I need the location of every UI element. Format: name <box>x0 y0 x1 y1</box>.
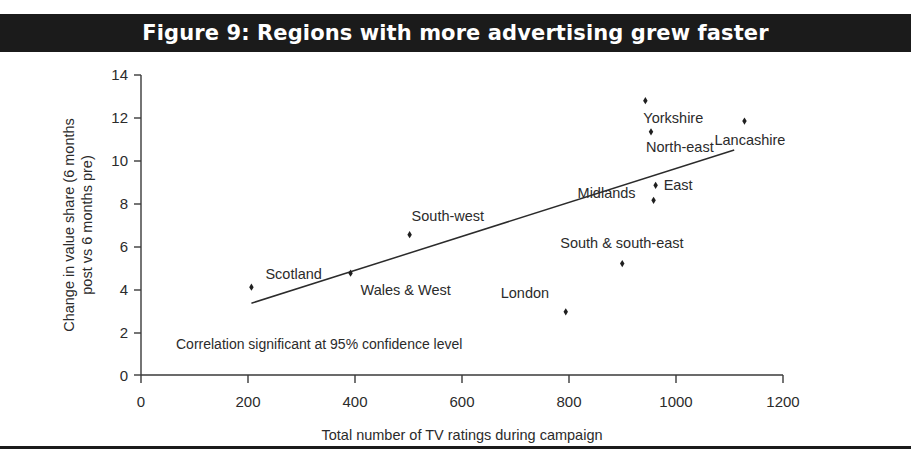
x-tick-label: 1000 <box>659 393 692 410</box>
x-tick-label: 400 <box>342 393 367 410</box>
figure-container: Figure 9: Regions with more advertising … <box>0 0 911 453</box>
y-tick-label: 8 <box>120 195 128 212</box>
y-axis-title-line2: post vs 6 months pre) <box>79 155 95 294</box>
figure-bottom-rule <box>0 446 911 449</box>
data-point-marker <box>407 231 411 238</box>
data-point-label: London <box>501 285 549 301</box>
x-tick-label: 800 <box>556 393 581 410</box>
data-point-label: North-east <box>646 139 714 155</box>
y-tick-label: 2 <box>120 324 128 341</box>
data-point-label: Midlands <box>578 185 636 201</box>
data-points-group: ScotlandWales & WestSouth-westLondonSout… <box>249 97 785 315</box>
data-point-label: South & south-east <box>560 235 683 251</box>
data-point-label: Wales & West <box>361 282 451 298</box>
x-axis-title: Total number of TV ratings during campai… <box>321 427 602 443</box>
data-point-marker <box>651 197 655 204</box>
figure-title: Figure 9: Regions with more advertising … <box>142 21 768 45</box>
data-point-marker <box>742 117 746 124</box>
x-tick-label: 1200 <box>766 393 799 410</box>
data-point-marker <box>564 308 568 315</box>
chart-plot-area: 14 12 10 8 6 4 2 0 <box>0 52 911 446</box>
trend-line <box>251 150 734 303</box>
data-point-marker <box>649 128 653 135</box>
y-tick-label: 0 <box>120 367 128 384</box>
y-axis-ticks <box>134 75 141 375</box>
y-tick-label: 6 <box>120 238 128 255</box>
y-tick-label: 4 <box>120 281 128 298</box>
y-tick-label: 10 <box>111 152 128 169</box>
y-tick-label: 12 <box>111 109 128 126</box>
correlation-annotation: Correlation significant at 95% confidenc… <box>176 336 462 352</box>
scatter-chart-svg: 14 12 10 8 6 4 2 0 <box>0 52 911 446</box>
data-point-marker <box>643 97 647 104</box>
x-tick-label: 0 <box>137 393 145 410</box>
data-point-label: Scotland <box>265 266 321 282</box>
figure-title-banner: Figure 9: Regions with more advertising … <box>0 14 911 52</box>
data-point-marker <box>653 182 657 189</box>
y-axis-tick-labels: 14 12 10 8 6 4 2 0 <box>111 66 128 384</box>
data-point-label: Lancashire <box>714 132 785 148</box>
data-point-label: South-west <box>412 208 485 224</box>
data-point-marker <box>620 260 624 267</box>
data-point-label: East <box>664 177 693 193</box>
x-axis-ticks <box>141 375 783 383</box>
data-point-label: Yorkshire <box>643 110 703 126</box>
y-axis-title-group: Change in value share (6 months post vs … <box>61 118 95 332</box>
y-axis-title-line1: Change in value share (6 months <box>61 118 77 332</box>
data-point-marker <box>249 284 253 291</box>
x-axis-tick-labels: 0 200 400 600 800 1000 1200 <box>137 393 800 410</box>
x-tick-label: 200 <box>235 393 260 410</box>
y-tick-label: 14 <box>111 66 128 83</box>
x-tick-label: 600 <box>449 393 474 410</box>
